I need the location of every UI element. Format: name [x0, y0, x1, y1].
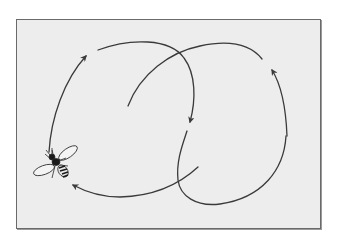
- bottom-return-arc: [73, 167, 198, 197]
- lower-right-loop: [178, 131, 286, 204]
- top-descending-arc: [98, 42, 194, 122]
- left-ascending-arc: [49, 56, 86, 152]
- right-ascending-arc: [272, 70, 287, 136]
- flight-path-diagram: [0, 0, 339, 243]
- inner-crossing-arc: [128, 43, 262, 106]
- bee-icon: [32, 143, 79, 179]
